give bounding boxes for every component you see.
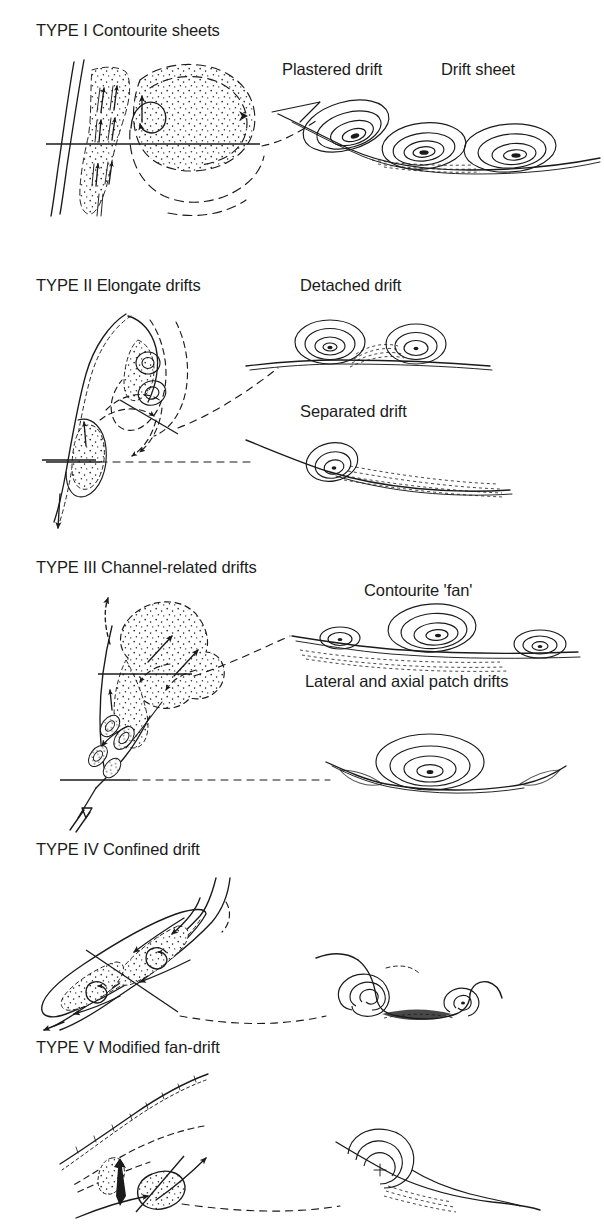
type-2-drawing xyxy=(0,250,604,540)
type-3-drawing xyxy=(0,540,604,840)
type-3-map-view xyxy=(60,598,224,832)
type-1-map-view xyxy=(46,60,264,216)
type-3-cross-section-fan xyxy=(292,601,580,671)
panel-type-4: TYPE IV Confined drift xyxy=(0,840,604,1030)
type-5-tie-line xyxy=(182,1204,340,1211)
type-4-drawing xyxy=(0,840,604,1030)
type-1-cross-section xyxy=(278,91,600,175)
type-5-cross-section xyxy=(336,1129,540,1212)
type-5-drawing xyxy=(0,1030,604,1230)
panel-type-5: TYPE V Modified fan-drift xyxy=(0,1030,604,1230)
type-2-cross-section-separated xyxy=(246,438,512,497)
type-2-tie-line-upper xyxy=(178,368,278,428)
panel-type-3: TYPE III Channel-related drifts Contouri… xyxy=(0,540,604,840)
type-1-drawing xyxy=(0,0,604,250)
type-2-cross-section-detached xyxy=(246,320,492,370)
type-4-tie-line xyxy=(180,1016,326,1024)
type-3-cross-section-patch xyxy=(326,734,566,793)
type-2-map-view xyxy=(42,314,188,528)
type-4-cross-section xyxy=(316,954,502,1020)
panel-type-1: TYPE I Contourite sheets Plastered drift… xyxy=(0,0,604,250)
panel-type-2: TYPE II Elongate drifts Detached drift S… xyxy=(0,250,604,540)
type-4-map-view xyxy=(42,878,230,1030)
contourite-drift-figure: TYPE I Contourite sheets Plastered drift… xyxy=(0,0,604,1230)
type-5-map-view xyxy=(60,1074,208,1218)
